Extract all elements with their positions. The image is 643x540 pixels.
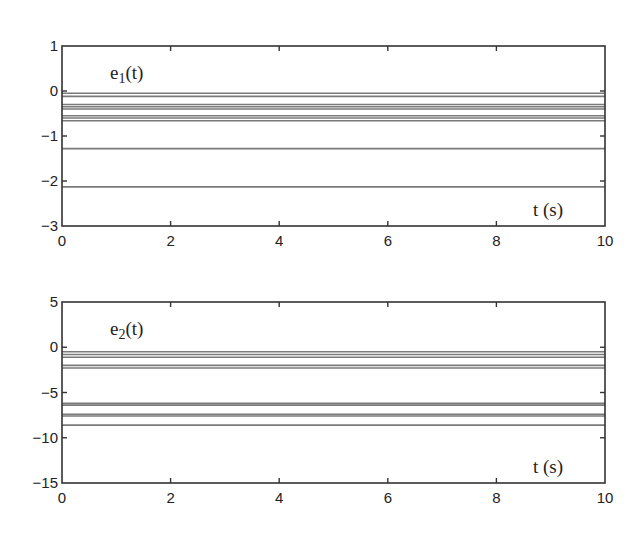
e1-x-tick-labels: 0246810: [58, 232, 614, 249]
e2-series-lines: [62, 352, 605, 425]
y-tick-label: 0: [50, 82, 58, 99]
x-tick-label: 2: [166, 232, 174, 249]
e1-tick-marks: [62, 46, 605, 226]
x-tick-label: 6: [384, 232, 392, 249]
y-tick-label: −10: [33, 429, 58, 446]
plot-e1: 0246810 10−1−2−3 e1(t) t (s): [41, 37, 613, 249]
y-tick-label: −5: [41, 384, 58, 401]
x-tick-label: 10: [597, 489, 614, 506]
y-tick-label: 1: [50, 37, 58, 54]
plot-e2: 0246810 50−5−10−15 e2(t) t (s): [33, 293, 614, 506]
e2-axes-frame: [62, 302, 605, 483]
e2-tick-marks: [62, 302, 605, 483]
e2-y-tick-labels: 50−5−10−15: [33, 293, 58, 491]
y-tick-label: −3: [41, 217, 58, 234]
x-tick-label: 8: [492, 489, 500, 506]
chart-canvas: 0246810 10−1−2−3 e1(t) t (s) 0246810 50−…: [0, 0, 643, 540]
x-tick-label: 8: [492, 232, 500, 249]
y-tick-label: −2: [41, 172, 58, 189]
y-tick-label: −15: [33, 474, 58, 491]
x-tick-label: 4: [275, 232, 283, 249]
e2-x-tick-labels: 0246810: [58, 489, 614, 506]
y-tick-label: 5: [50, 293, 58, 310]
x-tick-label: 6: [384, 489, 392, 506]
e1-y-tick-labels: 10−1−2−3: [41, 37, 58, 234]
figure: 0246810 10−1−2−3 e1(t) t (s) 0246810 50−…: [0, 0, 643, 540]
e1-series-lines: [62, 93, 605, 187]
e1-axes-frame: [62, 46, 605, 226]
y-tick-label: −1: [41, 127, 58, 144]
y-tick-label: 0: [50, 338, 58, 355]
e2-x-axis-label: t (s): [533, 456, 563, 478]
x-tick-label: 0: [58, 232, 66, 249]
e1-annotation: e1(t): [110, 62, 143, 86]
x-tick-label: 0: [58, 489, 66, 506]
x-tick-label: 10: [597, 232, 614, 249]
e1-x-axis-label: t (s): [533, 199, 563, 221]
x-tick-label: 4: [275, 489, 283, 506]
e2-annotation: e2(t): [110, 318, 143, 342]
x-tick-label: 2: [166, 489, 174, 506]
